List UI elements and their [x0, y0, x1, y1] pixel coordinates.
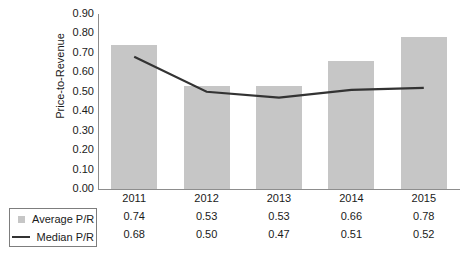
x-axis-tick-labels: 20112012201320142015: [98, 192, 460, 208]
table-row-median-pr: 0.680.500.470.510.52: [98, 228, 460, 246]
y-axis-tick-label: 0.20: [54, 144, 94, 155]
table-cell: 0.47: [243, 228, 315, 241]
x-axis-tick-label: 2012: [171, 192, 243, 205]
square-swatch-icon: [10, 216, 32, 223]
x-axis-tick-label: 2011: [98, 192, 170, 205]
x-axis-tick-label: 2015: [388, 192, 460, 205]
y-axis-tick-label: 0.60: [54, 66, 94, 77]
plot-area: [98, 14, 460, 189]
line-dash-icon: [10, 236, 32, 238]
table-cell: 0.50: [171, 228, 243, 241]
legend-label-median-pr: Median P/R: [32, 231, 98, 243]
x-axis-tick-label: 2013: [243, 192, 315, 205]
x-axis-line: [98, 189, 460, 190]
table-cell: 0.52: [388, 228, 460, 241]
legend-item-average-pr: Average P/R: [10, 210, 98, 228]
table-cell: 0.78: [388, 210, 460, 223]
table-cell: 0.53: [171, 210, 243, 223]
y-axis-tick-label: 0.80: [54, 27, 94, 38]
y-axis-tick-label: 0.00: [54, 183, 94, 194]
table-cell: 0.66: [315, 210, 387, 223]
table-cell: 0.51: [315, 228, 387, 241]
data-value-table: 0.740.530.530.660.78 0.680.500.470.510.5…: [98, 208, 460, 247]
y-axis-tick-label: 0.90: [54, 8, 94, 19]
line-series-median-pr: [98, 14, 460, 189]
table-cell: 0.68: [98, 228, 170, 241]
chart-figure: Price-to-Revenue 0.900.800.700.600.500.4…: [0, 0, 468, 255]
x-axis-tick-label: 2014: [315, 192, 387, 205]
y-axis-tick-label: 0.10: [54, 164, 94, 175]
y-axis-tick-label: 0.30: [54, 125, 94, 136]
y-axis-tick-label: 0.50: [54, 86, 94, 97]
legend-item-median-pr: Median P/R: [10, 228, 98, 246]
table-cell: 0.74: [98, 210, 170, 223]
chart-legend: Average P/R Median P/R: [9, 208, 97, 247]
y-axis-tick-label: 0.70: [54, 47, 94, 58]
y-axis-tick-label: 0.40: [54, 105, 94, 116]
table-cell: 0.53: [243, 210, 315, 223]
table-row-average-pr: 0.740.530.530.660.78: [98, 210, 460, 228]
legend-label-average-pr: Average P/R: [32, 213, 98, 225]
